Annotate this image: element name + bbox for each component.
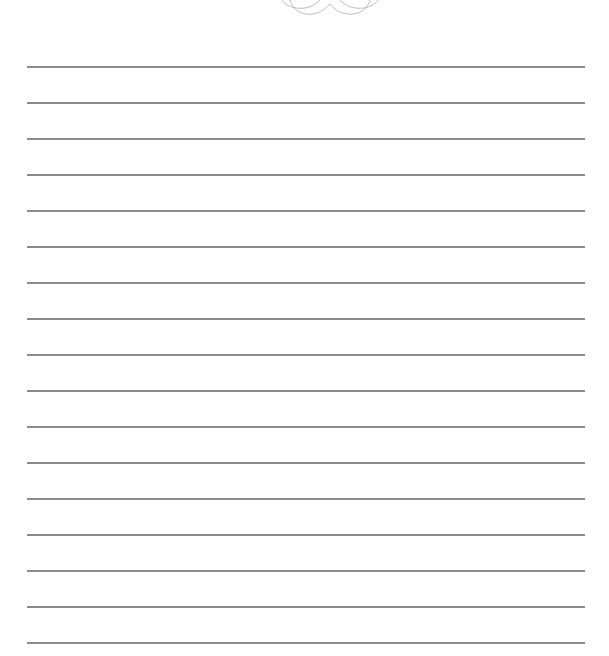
ruled-line: [27, 246, 585, 248]
ruled-line: [27, 426, 585, 428]
ruled-line: [27, 390, 585, 392]
ruled-line: [27, 498, 585, 500]
ruled-line: [27, 570, 585, 572]
ruled-line: [27, 354, 585, 356]
ruled-line: [27, 318, 585, 320]
ruled-line: [27, 462, 585, 464]
ruled-line: [27, 210, 585, 212]
ruled-line: [27, 138, 585, 140]
swirl-ornament-icon: [280, 0, 380, 20]
ruled-line: [27, 66, 585, 68]
ruled-line: [27, 282, 585, 284]
ruled-line: [27, 102, 585, 104]
ruled-line: [27, 534, 585, 536]
ruled-line: [27, 606, 585, 608]
ruled-line: [27, 642, 585, 644]
ruled-line: [27, 174, 585, 176]
